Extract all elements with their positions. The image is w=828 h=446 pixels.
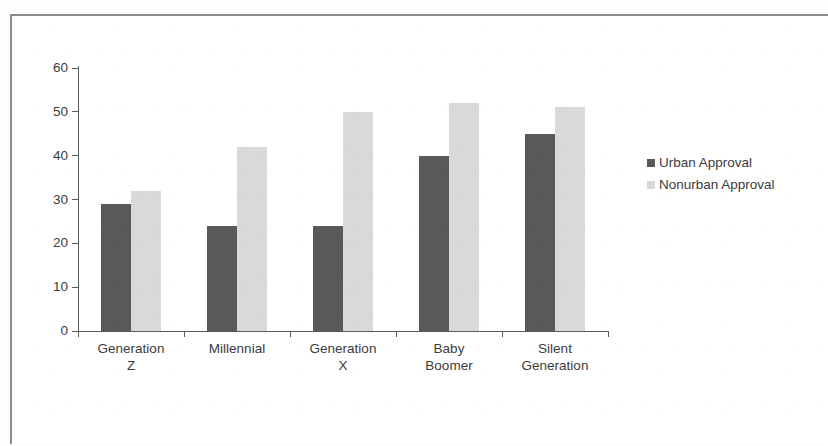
legend-item-nonurban-approval: Nonurban Approval (647, 174, 817, 196)
urban-approval-swatch-icon (647, 159, 655, 167)
legend-label-urban-approval: Urban Approval (659, 156, 752, 170)
chart-legend: Urban Approval Nonurban Approval (647, 152, 817, 196)
legend-item-urban-approval: Urban Approval (647, 152, 817, 174)
chart-frame-border (10, 14, 828, 444)
legend-label-nonurban-approval: Nonurban Approval (659, 178, 775, 192)
nonurban-approval-swatch-icon (647, 181, 655, 189)
